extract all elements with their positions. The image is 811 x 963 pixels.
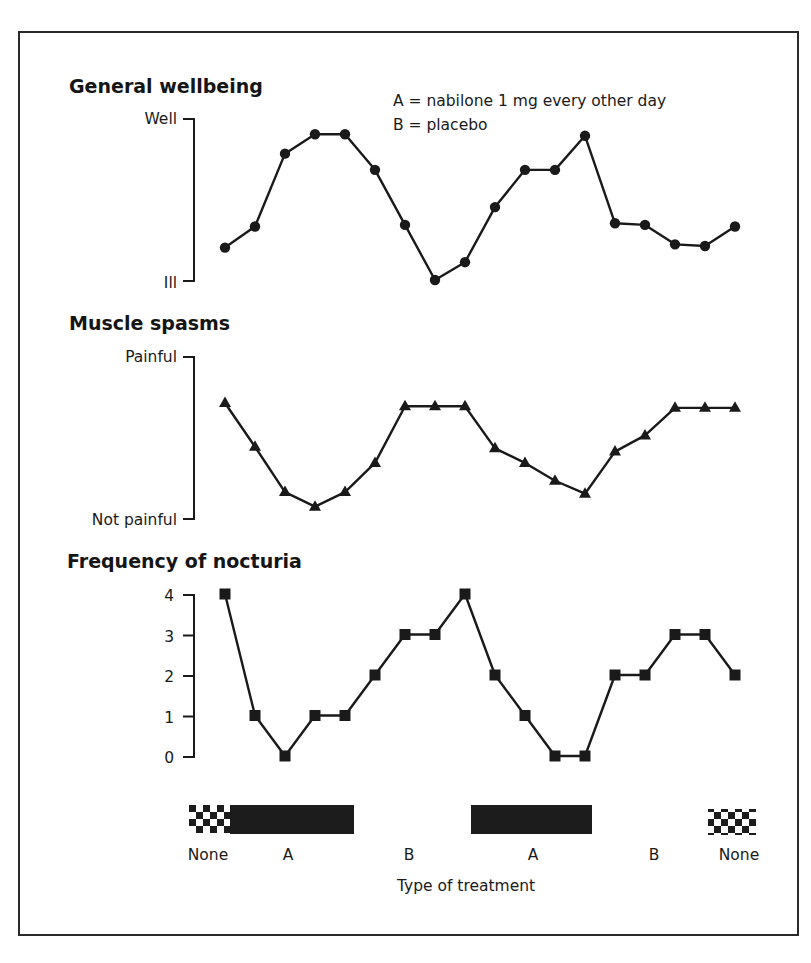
data-point — [670, 629, 681, 640]
data-point — [490, 670, 501, 681]
data-point — [580, 131, 590, 141]
series-spasms — [219, 396, 741, 510]
legend-b: B = placebo — [393, 116, 488, 134]
y-tick-label: 4 — [164, 587, 174, 605]
data-point — [250, 710, 261, 721]
segment-label: A — [528, 846, 539, 864]
data-point — [370, 165, 380, 175]
panel-wellbeing: General wellbeing A = nabilone 1 mg ever… — [69, 75, 740, 292]
data-point — [700, 629, 711, 640]
data-point — [520, 710, 531, 721]
data-point — [310, 129, 320, 139]
treatment-a-first — [230, 805, 354, 834]
data-point — [730, 670, 741, 681]
panel-title-nocturia: Frequency of nocturia — [67, 550, 302, 572]
data-point — [399, 400, 411, 411]
panel-nocturia: Frequency of nocturia 01234 — [67, 550, 741, 767]
data-point — [280, 751, 291, 762]
data-point — [520, 165, 530, 175]
segment-label: B — [649, 846, 660, 864]
series-wellbeing — [220, 129, 740, 285]
data-point — [550, 165, 560, 175]
legend-a: A = nabilone 1 mg every other day — [393, 92, 666, 110]
y-tick-label: 1 — [164, 709, 174, 727]
data-point — [729, 401, 741, 412]
data-point — [640, 670, 651, 681]
data-point — [220, 242, 230, 252]
y-tick-label: 3 — [164, 628, 174, 646]
data-point — [370, 670, 381, 681]
treatment-a-second — [471, 805, 592, 834]
y-axis-ticks: 01234 — [164, 587, 194, 767]
y-label-well: Well — [144, 110, 177, 128]
y-axis-bracket — [183, 357, 194, 519]
data-point — [310, 710, 321, 721]
segment-label: None — [719, 846, 759, 864]
segment-label: A — [283, 846, 294, 864]
segment-label: B — [404, 846, 415, 864]
data-point — [220, 589, 231, 600]
treatment-none-left — [189, 805, 231, 833]
data-point — [699, 401, 711, 412]
data-point — [400, 220, 410, 230]
chart-canvas: General wellbeing A = nabilone 1 mg ever… — [0, 0, 811, 963]
panel-spasms: Muscle spasms Painful Not painful — [69, 312, 741, 529]
x-axis-title: Type of treatment — [396, 877, 535, 895]
data-point — [429, 400, 441, 411]
segment-label: None — [188, 846, 228, 864]
y-tick-label: 0 — [164, 749, 174, 767]
y-label-painful: Painful — [125, 348, 177, 366]
data-point — [219, 396, 231, 407]
data-point — [610, 670, 621, 681]
data-point — [669, 401, 681, 412]
treatment-none-right — [708, 809, 756, 835]
data-point — [700, 241, 710, 251]
data-point — [460, 257, 470, 267]
data-point — [400, 629, 411, 640]
treatment-bar: None A B A B None Type of treatment — [188, 805, 759, 895]
data-point — [340, 710, 351, 721]
data-point — [280, 148, 290, 158]
data-point — [460, 589, 471, 600]
panel-title-spasms: Muscle spasms — [69, 312, 230, 334]
data-point — [550, 751, 561, 762]
data-point — [250, 221, 260, 231]
data-point — [580, 751, 591, 762]
y-label-not-painful: Not painful — [92, 511, 177, 529]
data-point — [610, 218, 620, 228]
data-point — [340, 129, 350, 139]
series-nocturia — [220, 589, 741, 762]
data-point — [430, 275, 440, 285]
y-tick-label: 2 — [164, 668, 174, 686]
data-point — [730, 221, 740, 231]
y-axis-bracket — [183, 119, 194, 281]
data-point — [640, 220, 650, 230]
data-point — [430, 629, 441, 640]
data-point — [670, 239, 680, 249]
data-point — [369, 456, 381, 467]
panel-title-wellbeing: General wellbeing — [69, 75, 263, 97]
y-label-ill: Ill — [164, 274, 177, 292]
data-point — [490, 202, 500, 212]
data-point — [459, 400, 471, 411]
